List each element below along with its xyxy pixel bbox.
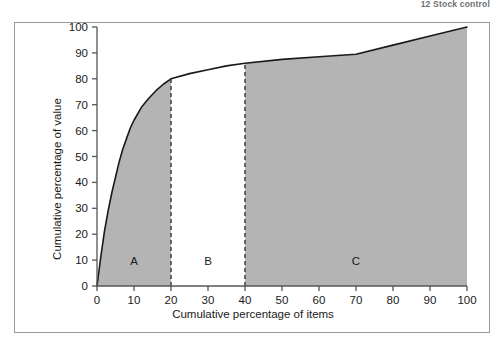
x-axis-label: Cumulative percentage of items <box>15 308 491 320</box>
region-label-a: A <box>130 255 138 267</box>
y-tick-labels: 0102030405060708090100 <box>69 23 88 292</box>
running-head: 12 Stock control <box>421 0 490 9</box>
region-fill-c <box>245 27 467 286</box>
y-tick-label-50: 50 <box>75 151 88 163</box>
y-tick-label-70: 70 <box>75 99 88 111</box>
x-tick-labels: 0102030405060708090100 <box>94 294 477 306</box>
x-tick-label-100: 100 <box>457 294 476 306</box>
x-tick-label-0: 0 <box>94 294 100 306</box>
x-tick-label-20: 20 <box>165 294 178 306</box>
x-tick-label-70: 70 <box>350 294 363 306</box>
region-label-c: C <box>352 255 360 267</box>
x-tick-label-10: 10 <box>128 294 141 306</box>
region-label-b: B <box>204 255 212 267</box>
y-tick-label-10: 10 <box>75 254 88 266</box>
y-tick-label-20: 20 <box>75 228 88 240</box>
y-tick-label-30: 30 <box>75 202 88 214</box>
x-tick-label-50: 50 <box>276 294 289 306</box>
y-axis-label-text: Cumulative percentage of value <box>51 98 63 260</box>
x-tick-label-80: 80 <box>387 294 400 306</box>
figure-frame: 0102030405060708090100 01020304050607080… <box>14 22 490 333</box>
y-tick-label-100: 100 <box>69 23 88 33</box>
y-tick-label-60: 60 <box>75 125 88 137</box>
x-tick-label-90: 90 <box>424 294 437 306</box>
x-tick-label-30: 30 <box>202 294 215 306</box>
y-axis-label: Cumulative percentage of value <box>47 23 67 334</box>
y-tick-label-90: 90 <box>75 47 88 59</box>
pareto-chart: 0102030405060708090100 01020304050607080… <box>15 23 491 334</box>
y-tick-label-40: 40 <box>75 176 88 188</box>
shaded-regions <box>97 27 467 286</box>
y-tick-label-0: 0 <box>82 280 88 292</box>
x-tick-label-40: 40 <box>239 294 252 306</box>
y-tick-label-80: 80 <box>75 73 88 85</box>
x-tick-label-60: 60 <box>313 294 326 306</box>
region-dividers <box>171 63 245 286</box>
